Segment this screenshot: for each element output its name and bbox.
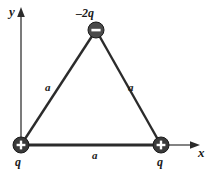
charge-top-label: –2q (76, 7, 94, 19)
y-axis-label: y (9, 5, 15, 18)
side-left-line (21, 30, 96, 145)
side-left-label: a (45, 82, 51, 93)
y-axis (17, 7, 25, 145)
side-right-label: a (128, 82, 134, 93)
minus-charge-bar (91, 29, 100, 32)
charge-bottom-left (13, 137, 29, 153)
charge-bottom-right (153, 137, 169, 153)
triangle-sides (21, 30, 161, 145)
charge-triangle-figure: y x –2q q q a a a (0, 0, 215, 176)
plus-charge-bar-v (20, 141, 22, 150)
charge-top (88, 22, 104, 38)
side-bottom-label: a (92, 150, 98, 161)
charge-bottom-right-label: q (157, 156, 163, 168)
x-axis-label: x (198, 146, 205, 159)
charge-bottom-left-label: q (15, 156, 21, 168)
diagram-canvas (0, 0, 215, 176)
y-axis-arrowhead-icon (17, 7, 25, 17)
plus-charge-bar-v (160, 141, 162, 150)
